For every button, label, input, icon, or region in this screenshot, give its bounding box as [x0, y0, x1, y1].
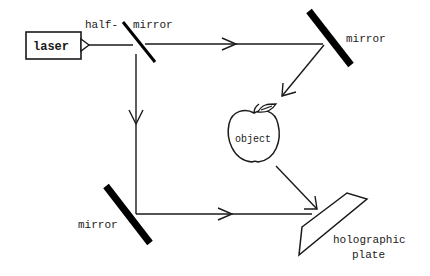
plate-label-line2: plate	[352, 249, 385, 261]
top-mirror	[309, 11, 351, 65]
bottom-mirror-label: mirror	[78, 219, 118, 231]
half-mirror-label-right: mirror	[133, 19, 173, 31]
top-mirror-label: mirror	[346, 33, 386, 45]
laser-aperture-icon	[81, 39, 89, 51]
object-apple: object	[228, 104, 279, 162]
beam-object-to-plate	[276, 166, 317, 209]
half-mirror-label-left: half-	[85, 19, 118, 31]
beam-top-mirror-to-object	[282, 45, 324, 96]
laser: laser	[26, 32, 89, 59]
apple-leaf	[258, 104, 276, 112]
object-label: object	[235, 134, 271, 145]
holography-diagram: laser half- mirror mirror object mirror …	[0, 0, 430, 276]
laser-label: laser	[33, 40, 69, 54]
plate-label-line1: holographic	[333, 234, 406, 246]
